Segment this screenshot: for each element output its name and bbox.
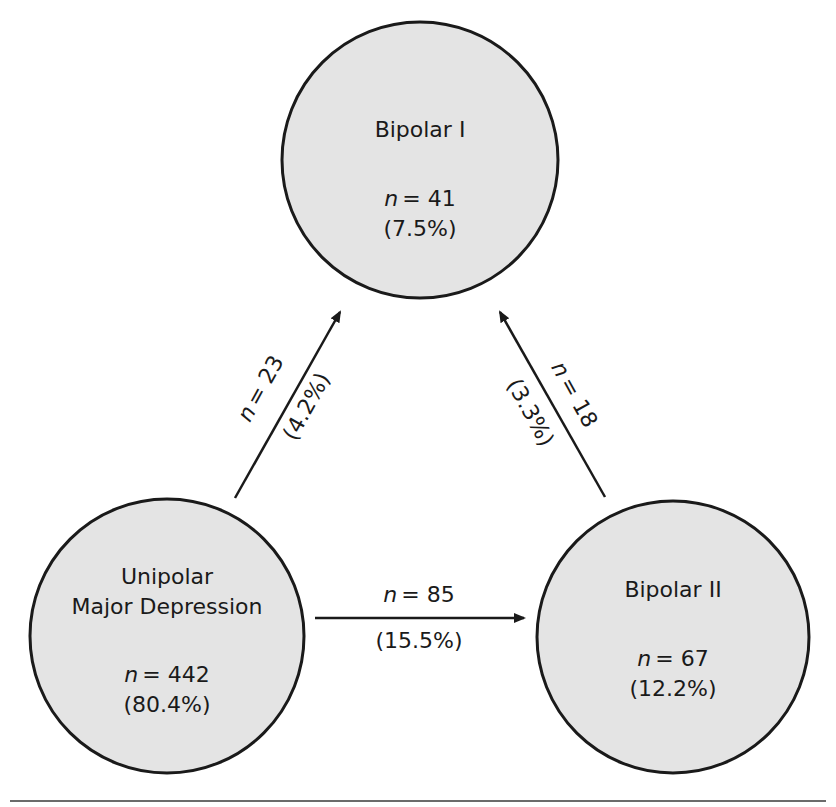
n-value: = 41 [402,186,455,211]
edge-unipolar-to-bipolar-1: n= 23 (4.2%) [232,312,340,498]
node-label: Bipolar I [375,117,466,142]
n-value: = 85 [401,582,454,607]
n-symbol: n [637,646,651,671]
n-value: = 442 [142,662,209,687]
transition-diagram: Bipolar I n= 41 (7.5%) Unipolar Major De… [0,0,836,807]
n-symbol: n [384,186,398,211]
node-label-line-1: Unipolar [121,564,214,589]
edge-percent: (3.3%) [502,374,559,450]
n-value: = 67 [655,646,708,671]
node-circle [30,499,304,773]
node-percent: (80.4%) [123,692,210,717]
node-percent: (7.5%) [383,216,456,241]
node-unipolar-major-depression: Unipolar Major Depression n= 442 (80.4%) [30,499,304,773]
node-count: n= 67 [637,646,708,671]
arrow-icon [235,312,340,498]
node-circle [537,501,809,773]
edge-unipolar-to-bipolar-2: n= 85 (15.5%) [315,582,524,653]
edge-count: n= 18 [546,357,602,432]
node-bipolar-1: Bipolar I n= 41 (7.5%) [282,22,558,298]
node-label: Bipolar II [624,577,721,602]
edge-percent: (15.5%) [375,628,462,653]
node-count: n= 442 [124,662,209,687]
n-symbol: n [383,582,397,607]
node-label-line-2: Major Depression [71,594,262,619]
edge-count: n= 85 [383,582,454,607]
node-bipolar-2: Bipolar II n= 67 (12.2%) [537,501,809,773]
n-value: = 23 [241,351,289,410]
node-circle [282,22,558,298]
edge-count: n= 23 [232,351,288,426]
node-percent: (12.2%) [629,676,716,701]
n-symbol: n [124,662,138,687]
edge-bipolar-2-to-bipolar-1: n= 18 (3.3%) [500,312,605,497]
node-count: n= 41 [384,186,455,211]
